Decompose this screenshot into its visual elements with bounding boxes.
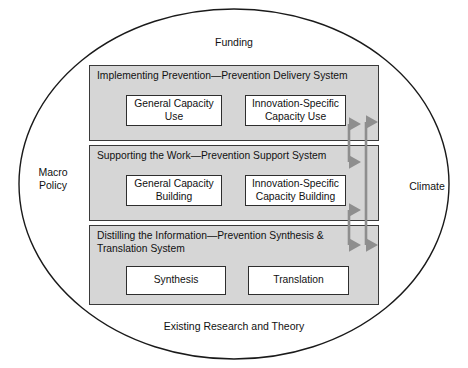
box-synthesis: Synthesis xyxy=(126,266,226,295)
context-label-funding: Funding xyxy=(184,36,284,49)
context-label-macro-policy: Macro Policy xyxy=(22,166,84,192)
box-translation: Translation xyxy=(248,266,349,295)
box-innovation-specific-capacity-building: Innovation-Specific Capacity Building xyxy=(245,175,346,206)
panel-prevention-synthesis-translation-system: Distilling the Information—Prevention Sy… xyxy=(89,225,379,305)
panel-title-prevention-delivery-system: Implementing Prevention—Prevention Deliv… xyxy=(97,70,372,83)
box-general-capacity-building: General Capacity Building xyxy=(126,175,222,206)
context-label-climate: Climate xyxy=(396,180,458,193)
panel-prevention-delivery-system: Implementing Prevention—Prevention Deliv… xyxy=(89,65,379,141)
diagram-canvas: Funding Existing Research and Theory Mac… xyxy=(0,0,468,368)
panel-prevention-support-system: Supporting the Work—Prevention Support S… xyxy=(89,145,379,221)
panel-title-prevention-support-system: Supporting the Work—Prevention Support S… xyxy=(97,150,372,163)
box-general-capacity-use: General Capacity Use xyxy=(126,95,222,126)
panel-title-prevention-synthesis-translation-system: Distilling the Information—Prevention Sy… xyxy=(97,230,372,255)
context-label-existing-research-and-theory: Existing Research and Theory xyxy=(134,320,334,333)
box-innovation-specific-capacity-use: Innovation-Specific Capacity Use xyxy=(245,95,346,126)
